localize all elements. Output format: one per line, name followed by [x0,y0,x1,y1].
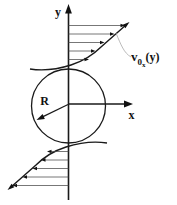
y-axis-arrowhead-icon [65,4,72,14]
x-axis-arrowhead-icon [124,101,133,108]
figure-canvas: y x R v0x(y) [0,0,177,205]
velocity-profile-label: v0x(y) [131,48,160,64]
top-envelope-curve [30,25,127,70]
radius-arrowhead-icon [37,114,45,120]
x-axis-label: x [129,108,135,122]
y-axis-label: y [55,5,61,19]
bottom-velocity-arrows [13,150,69,188]
flow-diagram-svg: y x R [0,0,177,205]
velocity-label-subx: x [142,61,146,69]
top-velocity-arrows [69,24,126,62]
radius-label: R [40,94,49,108]
bottom-envelope-curve [11,142,108,187]
velocity-arrowhead-icon [47,150,52,154]
velocity-label-args: (y) [146,50,160,64]
velocity-label-v: v [131,49,138,64]
label-leader-line [116,33,131,57]
